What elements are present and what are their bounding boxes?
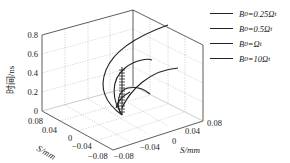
svg-text:−0.04: −0.04 — [72, 141, 92, 151]
right-axis-label: S/mm — [180, 145, 201, 155]
data-curves — [103, 25, 178, 115]
svg-text:0.6: 0.6 — [27, 49, 38, 59]
right-axis-ticks: −0.08 −0.04 0 0.04 0.08 — [114, 118, 222, 161]
legend-item: B0=0.5Ωt — [210, 21, 290, 36]
svg-text:0.04: 0.04 — [42, 125, 58, 135]
z-axis-ticks: 0 0.2 0.4 0.6 0.8 — [27, 30, 38, 116]
legend-item: B0=0.25Ωt — [210, 6, 290, 21]
svg-text:0.2: 0.2 — [27, 87, 38, 97]
svg-text:0.08: 0.08 — [207, 118, 222, 128]
legend: B0=0.25Ωt B0=0.5Ωt B0=Ωt B0=10Ωt — [210, 6, 290, 66]
svg-text:0.08: 0.08 — [28, 116, 43, 126]
legend-line-icon — [210, 43, 233, 44]
svg-text:0.8: 0.8 — [27, 30, 38, 40]
z-axis-label: 时间/ns — [5, 65, 16, 94]
svg-text:−0.08: −0.08 — [88, 151, 108, 161]
legend-line-icon — [210, 58, 233, 59]
series-0-25 — [103, 25, 168, 115]
helix-series-10 — [119, 67, 125, 115]
svg-text:0.04: 0.04 — [185, 126, 201, 136]
left-axis-label: S/mm — [35, 143, 58, 162]
legend-line-icon — [210, 28, 233, 29]
svg-text:0: 0 — [34, 106, 38, 116]
svg-text:0.4: 0.4 — [27, 68, 38, 78]
svg-text:−0.04: −0.04 — [140, 142, 160, 152]
legend-item: B0=10Ωt — [210, 51, 290, 66]
svg-text:0: 0 — [172, 136, 176, 146]
svg-text:−0.08: −0.08 — [114, 151, 134, 161]
legend-item: B0=Ωt — [210, 36, 290, 51]
legend-line-icon — [210, 13, 233, 14]
